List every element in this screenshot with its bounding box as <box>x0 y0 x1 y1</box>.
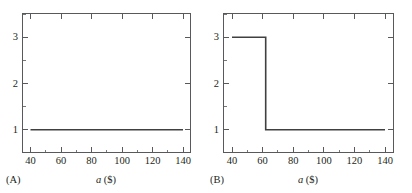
panel-b-xtick-2: 80 <box>288 156 299 167</box>
panel-b-label: (B) <box>210 175 224 186</box>
panel-a-xtick-2: 80 <box>86 156 97 167</box>
panel-a-xtick-5: 140 <box>175 156 191 167</box>
panel-b-ytick-1: 2 <box>209 78 219 89</box>
panel-b-xtick-3: 100 <box>316 156 332 167</box>
panel-a-ytick-2: 3 <box>8 32 18 43</box>
panel-a-ytick-1: 2 <box>8 78 18 89</box>
panel-b-xaxis-title: a ($) <box>298 175 318 186</box>
panel-a-axes <box>23 14 191 153</box>
panel-b-data-line <box>232 37 385 130</box>
panel-a-xtick-1: 60 <box>56 156 67 167</box>
panel-b-ytick-0: 1 <box>209 125 219 136</box>
panel-b-xtick-5: 140 <box>377 156 393 167</box>
panel-a-label: (A) <box>6 175 21 186</box>
panel-b-axes <box>224 14 394 153</box>
figure-container: 40 60 80 100 120 140 1 2 3 a ($) (A) <box>0 0 412 193</box>
panel-a-ytick-0: 1 <box>8 125 18 136</box>
panel-a-xaxis-title: a ($) <box>96 175 116 186</box>
panel-b-xtick-0: 40 <box>227 156 238 167</box>
panel-b-xtick-1: 60 <box>257 156 268 167</box>
panel-b-ytick-2: 3 <box>209 32 219 43</box>
panel-b: 40 60 80 100 120 140 1 2 3 a ($) (B) <box>206 0 412 193</box>
panel-b-xtick-4: 120 <box>347 156 363 167</box>
panel-b-xaxis-unit: ($) <box>303 174 318 185</box>
panel-a-xaxis-unit: ($) <box>101 174 116 185</box>
panel-a: 40 60 80 100 120 140 1 2 3 a ($) (A) <box>0 0 206 193</box>
panel-a-xtick-0: 40 <box>25 156 36 167</box>
panel-a-xtick-4: 120 <box>145 156 161 167</box>
panel-a-xtick-3: 100 <box>114 156 130 167</box>
